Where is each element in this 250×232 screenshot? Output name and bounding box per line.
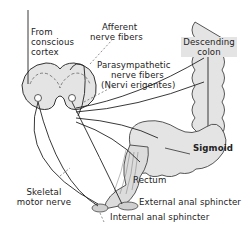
internal-anal-sphincter bbox=[92, 204, 108, 212]
label-afferent-fibers: Afferent nerve fibers bbox=[90, 22, 143, 42]
label-external-anal-sphincter: External anal sphincter bbox=[139, 197, 241, 207]
label-internal-anal-sphincter: Internal anal sphincter bbox=[110, 212, 209, 222]
label-from-cortex: From conscious cortex bbox=[31, 27, 74, 57]
label-descending-colon: Descending colon bbox=[181, 37, 237, 57]
innervation-diagram: From conscious cortex Afferent nerve fib… bbox=[0, 0, 250, 232]
external-anal-sphincter bbox=[118, 202, 138, 210]
label-skeletal-motor-nerve: Skeletal motor nerve bbox=[14, 187, 74, 207]
label-rectum: Rectum bbox=[133, 175, 166, 185]
label-sigmoid: Sigmoid bbox=[193, 143, 233, 153]
label-parasympathetic-fibers: Parasympathetic nerve fibers (Nervi erig… bbox=[97, 60, 175, 90]
